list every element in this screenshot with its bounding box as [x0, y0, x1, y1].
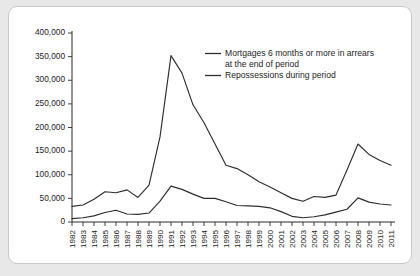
x-tick-label: 1984 — [90, 230, 99, 249]
y-tick-label: 0 — [60, 216, 65, 226]
x-tick-label: 2005 — [321, 230, 330, 249]
y-tick-label: 350,000 — [35, 51, 65, 61]
y-axis-group: 050,000100,000150,000200,000250,000300,0… — [35, 27, 72, 226]
y-tick-labels: 050,000100,000150,000200,000250,000300,0… — [35, 27, 65, 226]
x-tick-label: 2011 — [387, 230, 396, 248]
x-tick-label: 2009 — [365, 230, 374, 249]
legend-label-arrears-line2: at the end of period — [225, 59, 299, 69]
x-tick-label: 2010 — [376, 230, 385, 249]
x-tick-label: 1997 — [233, 230, 242, 249]
legend-label-arrears-line1: Mortgages 6 months or more in arrears — [225, 48, 374, 58]
y-tick-label: 250,000 — [35, 98, 65, 108]
x-tick-label: 1989 — [145, 230, 154, 249]
x-tick-label: 1991 — [167, 230, 176, 249]
x-tick-label: 1994 — [200, 230, 209, 249]
data-series-group — [72, 56, 391, 219]
y-tick-label: 50,000 — [40, 193, 66, 203]
figure-card: 050,000100,000150,000200,000250,000300,0… — [8, 6, 412, 264]
x-tick-label: 1993 — [189, 230, 198, 249]
x-tick-label: 1990 — [156, 230, 165, 249]
x-tick-label: 1986 — [112, 230, 121, 249]
y-tick-label: 300,000 — [35, 74, 65, 84]
x-tick-label: 1983 — [79, 230, 88, 249]
x-tick-label: 1995 — [211, 230, 220, 249]
y-tick-label: 400,000 — [35, 27, 65, 37]
x-tick-label: 1985 — [101, 230, 110, 249]
x-tick-label: 2003 — [299, 230, 308, 249]
x-tick-labels: 1982198319841985198619871988198919901991… — [68, 230, 396, 249]
x-tick-label: 1998 — [244, 230, 253, 249]
x-tick-marks — [72, 222, 391, 226]
chart-plot-area: 050,000100,000150,000200,000250,000300,0… — [9, 7, 413, 265]
x-tick-label: 1999 — [255, 230, 264, 249]
x-tick-label: 1988 — [134, 230, 143, 249]
x-tick-label: 2000 — [266, 230, 275, 249]
y-tick-marks — [68, 33, 72, 222]
x-tick-label: 2004 — [310, 230, 319, 249]
legend: Mortgages 6 months or more in arrears at… — [205, 48, 374, 80]
x-axis-group: 1982198319841985198619871988198919901991… — [68, 222, 396, 248]
x-tick-label: 2008 — [354, 230, 363, 249]
x-tick-label: 1992 — [178, 230, 187, 249]
x-tick-label: 1982 — [68, 230, 77, 249]
y-tick-label: 150,000 — [35, 145, 65, 155]
y-tick-label: 100,000 — [35, 169, 65, 179]
legend-label-repossessions: Repossessions during period — [225, 70, 336, 80]
series-line-repossessions — [72, 186, 391, 219]
x-tick-label: 1996 — [222, 230, 231, 249]
line-chart-svg: 050,000100,000150,000200,000250,000300,0… — [9, 7, 413, 265]
x-tick-label: 1987 — [123, 230, 132, 249]
x-tick-label: 2001 — [277, 230, 286, 249]
y-tick-label: 200,000 — [35, 122, 65, 132]
x-tick-label: 2006 — [332, 230, 341, 249]
x-tick-label: 2002 — [288, 230, 297, 249]
x-tick-label: 2007 — [343, 230, 352, 249]
